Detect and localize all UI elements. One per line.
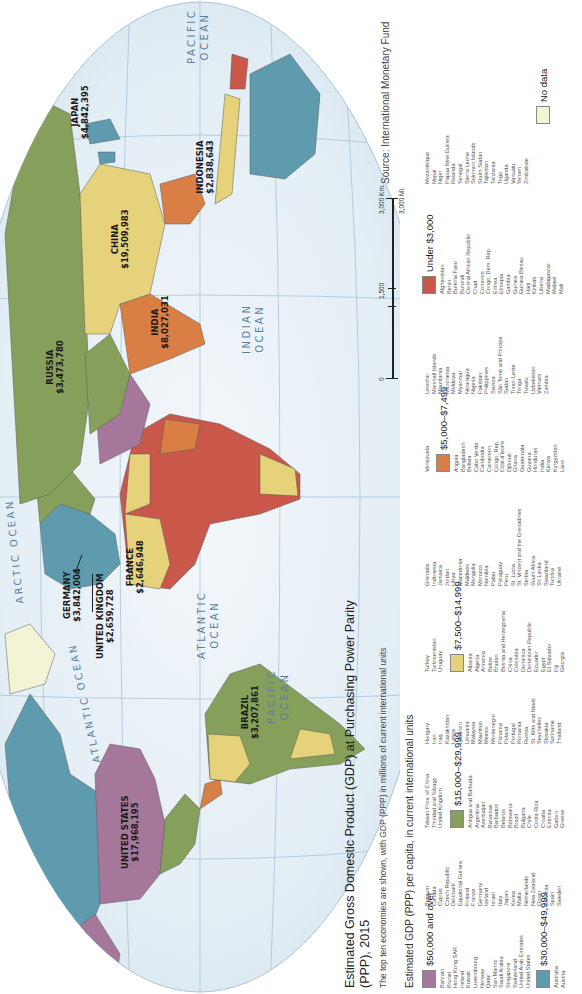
legend-country: Peru [503, 508, 510, 586]
legend-country: Burundi [459, 234, 466, 294]
legend-country: Taiwan Prov. of China [424, 774, 431, 828]
legend-country: Sweden [556, 861, 563, 906]
legend-country: Solomon Islands [470, 135, 477, 184]
legend-country: Macedonia [457, 508, 464, 586]
legend-country: Croatia [540, 775, 547, 828]
legend-category-5000: $5,000–$7,499 [436, 387, 450, 472]
legend-country: El Salvador [546, 611, 553, 672]
legend-country: Lebanon [457, 698, 464, 744]
legend-country: Bangladesh [460, 441, 467, 472]
legend-list-50k: BahrainBruneiHong Kong SARIrelandKuwaitL… [439, 935, 531, 988]
legend-country: Egypt [540, 611, 547, 672]
legend-country: Uruguay [437, 638, 444, 672]
legend-country: Zimbabwe [523, 135, 530, 184]
legend-country: Slovakia [543, 698, 550, 744]
legend-country: Estonia [546, 775, 553, 828]
map-subtitle: The top ten economies are shown, with GD… [378, 588, 388, 988]
legend-country: Kenya [545, 441, 552, 472]
legend-country: Yemen [516, 135, 523, 184]
legend-country: Czech Republic [444, 861, 451, 906]
ocean-label-pacific-west: PACIFICOCEAN [185, 9, 211, 64]
legend-country: Marshall Islands [431, 336, 438, 394]
legend-country: Malaysia [470, 698, 477, 744]
legend-country: Georgia [559, 611, 566, 672]
legend-country: Equatorial Guinea [457, 861, 464, 906]
legend-country: Zambia [543, 336, 550, 394]
world-map: PACIFICOCEAN ATLANTIC OCEAN ARCTIC OCEAN… [0, 0, 400, 994]
map-title: Estimated Gross Domestic Product (GDP) a… [343, 588, 373, 988]
legend-country: Chile [526, 775, 533, 828]
legend-list-under-3000-b: MozambiqueNepalNigerPapua New GuineaRwan… [424, 135, 530, 184]
legend-category-15k: $15,000–$29,999 [450, 732, 464, 828]
legend-country: Samoa [490, 336, 497, 394]
legend-country: Botswana [507, 775, 514, 828]
legend-country: Tuvalu [523, 336, 530, 394]
legend-country: Guatemala [519, 441, 526, 472]
legend-country: Iceland [483, 861, 490, 906]
legend-country: Hong Kong SAR [452, 935, 459, 988]
legend-country: Spain [549, 861, 556, 906]
legend-country: Germany [477, 861, 484, 906]
legend-country: Belarus [500, 775, 507, 828]
legend-country: Iran [431, 698, 438, 744]
legend-country: Romania [516, 698, 523, 744]
legend-country: Cameroon [486, 441, 493, 472]
legend-list-15k-a: Antigua and BarbudaArgentinaAzerbaijanBa… [467, 775, 566, 828]
swatch-under-3000 [422, 276, 436, 294]
legend-country: Indonesia [431, 508, 438, 586]
legend-country: Ireland [459, 935, 466, 988]
label-china: CHINA$19,509,983 [110, 209, 130, 269]
legend-country: United Arab Emirates [518, 935, 525, 988]
legend-country: Nicaragua [464, 336, 471, 394]
legend-country: New Zealand [530, 861, 537, 906]
label-united-states: UNITED STATES$17,968,195 [120, 795, 140, 869]
legend-country: Libya [450, 508, 457, 586]
scale-label-mi: 3,000 Mi. [398, 187, 405, 214]
legend-country: Uganda [503, 135, 510, 184]
legend-country: Qatar [485, 935, 492, 988]
ocean-label-indian: INDIANOCEAN [240, 304, 266, 354]
legend-country: Azerbaijan [480, 775, 487, 828]
legend-country: United States [525, 935, 532, 988]
legend-list-30k-b: BelgiumCanadaCyprusCzech RepublicDenmark… [424, 861, 562, 906]
legend-country: Barbados [493, 775, 500, 828]
swatch-7500 [450, 654, 464, 672]
legend-list-5000-a: AngolaBangladeshBoliviaCabo VerdeCambodi… [453, 441, 565, 472]
legend-country: Ethiopia [498, 234, 505, 294]
legend-heading: Estimated GDP (PPP) per capita, in curre… [404, 715, 415, 988]
legend-list-7500-b: GrenadaIndonesiaJamaicaJordanLibyaMacedo… [424, 508, 562, 586]
legend-country: Russia [523, 698, 530, 744]
legend-country: Switzerland [512, 935, 519, 988]
legend-country: Kazakhstan [444, 698, 451, 744]
legend-country: Suriname [549, 698, 556, 744]
legend-country: Sri Lanka [536, 508, 543, 586]
legend-country: Pakistan [477, 336, 484, 394]
legend-country: Moldova [450, 336, 457, 394]
legend-country: Armenia [480, 611, 487, 672]
label-france: FRANCE$2,646,948 [125, 540, 145, 594]
label-brazil: BRAZIL$3,207,861 [240, 685, 260, 739]
legend-country: Sudan [503, 336, 510, 394]
legend-list-30k-a: AustraliaAustria [553, 966, 566, 988]
legend-country: Mexico [483, 698, 490, 744]
legend-country: Guinea-Bissau [518, 234, 525, 294]
legend-country: Niger [437, 135, 444, 184]
legend-list-5000-b: LesothoMarshall IslandsMauritaniaMicrone… [424, 336, 549, 394]
legend-country: Cabo Verde [473, 441, 480, 472]
legend-country: Gabon [553, 775, 560, 828]
legend-country: Morocco [477, 508, 484, 586]
legend-country: United Kingdom [437, 774, 444, 828]
legend-country: Brazil [513, 775, 520, 828]
legend-country: Cyprus [437, 861, 444, 906]
legend-country: Paraguay [497, 508, 504, 586]
legend-country: Sierra Leone [464, 135, 471, 184]
legend-country: Belgium [424, 861, 431, 906]
legend-country: St. Lucia [510, 508, 517, 586]
legend-country: Korea [510, 861, 517, 906]
legend-country: Timor-Leste [510, 336, 517, 394]
legend-country: Côte d'Ivoire [499, 441, 506, 472]
legend-country: Kiribati [531, 234, 538, 294]
legend-country: Micronesia [444, 336, 451, 394]
label-russia: RUSSIA$3,473,780 [45, 340, 65, 394]
legend-country: Papua New Guinea [444, 135, 451, 184]
